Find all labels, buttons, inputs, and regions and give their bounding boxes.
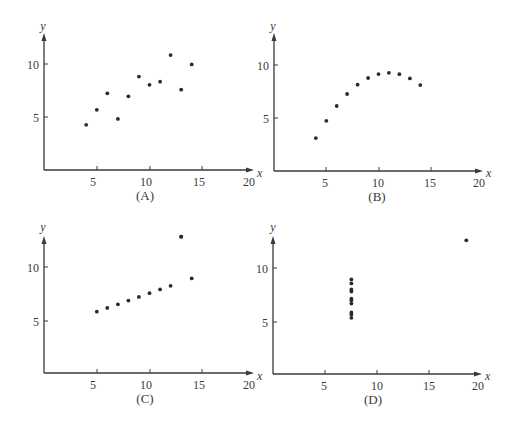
panel-d: 5 10 15 20 5 10 x y (D) — [256, 220, 491, 407]
data-point — [366, 76, 370, 80]
y-tick-label: 10 — [256, 262, 268, 276]
y-axis-arrow-icon — [272, 33, 277, 41]
x-axis-arrow-icon — [246, 371, 254, 376]
y-tick-label: 10 — [27, 58, 39, 72]
data-point — [350, 298, 354, 302]
data-points — [350, 238, 469, 319]
y-axis-label: y — [269, 19, 276, 33]
x-axis-label: x — [485, 166, 492, 180]
data-point — [350, 278, 354, 282]
x-tick-label: 10 — [140, 378, 152, 392]
data-point — [137, 75, 141, 79]
data-point — [105, 306, 109, 310]
x-tick-label: 5 — [321, 379, 327, 393]
data-point — [335, 104, 339, 108]
y-axis-label: y — [39, 220, 46, 234]
data-point — [350, 288, 354, 292]
data-point — [84, 123, 88, 127]
y-tick-label: 5 — [33, 315, 39, 329]
x-tick-label: 20 — [243, 378, 255, 392]
data-point — [350, 313, 354, 317]
data-point — [179, 235, 183, 239]
data-point — [95, 108, 99, 112]
panel-label: (D) — [364, 392, 382, 407]
y-tick-label: 10 — [27, 261, 39, 275]
x-tick-label: 5 — [90, 175, 96, 189]
data-point — [126, 299, 130, 303]
data-points — [84, 53, 193, 127]
data-point — [158, 80, 162, 84]
data-point — [418, 83, 422, 87]
data-point — [398, 72, 402, 76]
data-point — [345, 92, 349, 96]
x-tick-label: 15 — [193, 378, 205, 392]
data-point — [105, 91, 109, 95]
x-tick-label: 10 — [372, 176, 384, 190]
x-tick-label: 5 — [322, 176, 328, 190]
x-axis-arrow-icon — [474, 372, 482, 377]
panel-label: (C) — [136, 391, 153, 406]
data-point — [408, 77, 412, 81]
data-points — [314, 71, 422, 140]
x-axis-arrow-icon — [246, 168, 254, 173]
data-point — [377, 72, 381, 76]
x-axis-arrow-icon — [475, 169, 483, 174]
data-point — [324, 119, 328, 123]
data-point — [350, 302, 354, 306]
scatter-figure: 5 10 15 20 5 10 x y (A) 5 10 15 20 5 10 … — [0, 0, 517, 425]
data-point — [169, 53, 173, 57]
data-point — [356, 83, 360, 87]
data-point — [148, 83, 152, 87]
x-tick-label: 20 — [473, 176, 485, 190]
data-point — [350, 282, 354, 286]
x-tick-label: 15 — [193, 175, 205, 189]
data-point — [190, 63, 194, 67]
data-point — [190, 277, 194, 281]
x-tick-label: 10 — [371, 379, 383, 393]
data-points — [95, 235, 194, 314]
data-point — [158, 288, 162, 292]
data-point — [169, 284, 173, 288]
panel-label: (A) — [136, 188, 154, 203]
x-tick-label: 10 — [140, 175, 152, 189]
y-axis-arrow-icon — [42, 236, 47, 244]
panel-b: 5 10 15 20 5 10 x y (B) — [257, 19, 492, 204]
data-point — [116, 117, 120, 121]
x-tick-label: 5 — [90, 378, 96, 392]
data-point — [126, 94, 130, 98]
data-point — [314, 136, 318, 140]
panel-a: 5 10 15 20 5 10 x y (A) — [27, 19, 263, 203]
y-tick-label: 5 — [33, 111, 39, 125]
data-point — [148, 291, 152, 295]
data-point — [137, 295, 141, 299]
y-axis-label: y — [269, 220, 276, 234]
y-tick-label: 5 — [263, 112, 269, 126]
panel-label: (B) — [368, 189, 385, 204]
data-point — [387, 71, 391, 75]
x-axis-label: x — [484, 369, 491, 383]
data-point — [350, 316, 354, 320]
data-point — [179, 88, 183, 92]
x-tick-label: 20 — [243, 175, 255, 189]
y-axis-arrow-icon — [42, 33, 47, 41]
panel-c: 5 10 15 20 5 10 x y (C) — [27, 220, 263, 406]
data-point — [95, 310, 99, 314]
x-tick-label: 20 — [472, 379, 484, 393]
data-point — [464, 238, 468, 242]
y-tick-label: 5 — [262, 316, 268, 330]
x-axis-label: x — [256, 369, 263, 383]
y-tick-label: 10 — [257, 59, 269, 73]
x-axis-label: x — [256, 166, 263, 180]
y-axis-arrow-icon — [271, 236, 276, 244]
y-axis-label: y — [39, 19, 46, 33]
x-tick-label: 15 — [423, 379, 435, 393]
data-point — [116, 302, 120, 306]
x-tick-label: 15 — [424, 176, 436, 190]
